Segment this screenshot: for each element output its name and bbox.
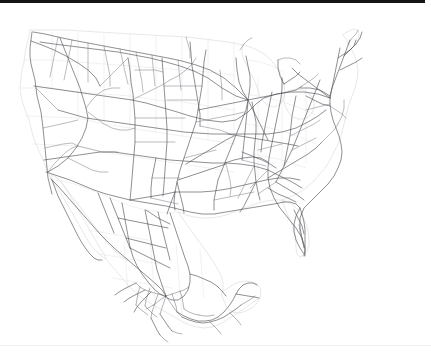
map-background xyxy=(0,0,431,355)
top-edge-band xyxy=(0,0,425,3)
bottom-edge-rule xyxy=(0,345,431,346)
map-canvas[interactable] xyxy=(0,0,431,355)
map-viewport[interactable]: North America Road Network xyxy=(0,0,431,355)
